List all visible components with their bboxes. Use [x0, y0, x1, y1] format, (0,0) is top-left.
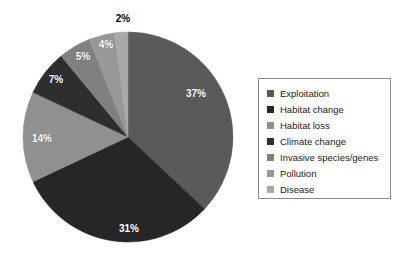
- legend-item-label: Invasive species/genes: [280, 152, 378, 163]
- legend-item[interactable]: Pollution: [267, 165, 386, 181]
- legend-swatch-icon: [267, 138, 274, 145]
- pie-slice-value-label: 5%: [76, 51, 90, 62]
- legend-swatch-icon: [267, 90, 274, 97]
- legend-item[interactable]: Disease: [267, 181, 386, 197]
- legend-item[interactable]: Exploitation: [267, 85, 386, 101]
- pie-slice-value-label: 4%: [99, 39, 113, 50]
- legend-item[interactable]: Habitat loss: [267, 117, 386, 133]
- chart-legend: ExploitationHabitat changeHabitat lossCl…: [258, 78, 391, 199]
- pie-slice-value-label: 7%: [49, 74, 63, 85]
- legend-swatch-icon: [267, 170, 274, 177]
- pie-slice-value-label: 31%: [119, 223, 139, 234]
- pie-plot-area: 37%31%14%7%5%4%2%: [0, 0, 250, 267]
- legend-swatch-icon: [267, 122, 274, 129]
- legend-item[interactable]: Habitat change: [267, 101, 386, 117]
- pie-slice-value-label: 37%: [186, 88, 206, 99]
- pie-slice-value-label: 2%: [116, 13, 130, 24]
- pie-slice-value-label: 14%: [32, 133, 52, 144]
- legend-item-label: Exploitation: [280, 88, 329, 99]
- legend-item[interactable]: Invasive species/genes: [267, 149, 386, 165]
- pie-chart-figure: 37%31%14%7%5%4%2% ExploitationHabitat ch…: [0, 0, 412, 267]
- legend-item-label: Disease: [280, 184, 314, 195]
- legend-item-label: Pollution: [280, 168, 316, 179]
- legend-swatch-icon: [267, 154, 274, 161]
- legend-item-label: Habitat loss: [280, 120, 330, 131]
- legend-swatch-icon: [267, 186, 274, 193]
- legend-item[interactable]: Climate change: [267, 133, 386, 149]
- legend-item-label: Climate change: [280, 136, 346, 147]
- legend-item-list: ExploitationHabitat changeHabitat lossCl…: [267, 85, 386, 197]
- legend-swatch-icon: [267, 106, 274, 113]
- legend-item-label: Habitat change: [280, 104, 344, 115]
